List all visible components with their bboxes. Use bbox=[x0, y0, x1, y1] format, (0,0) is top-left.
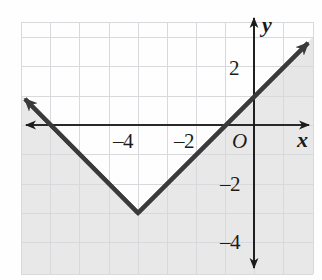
origin-label: O bbox=[232, 131, 247, 152]
y-tick-label--2: –2 bbox=[220, 174, 240, 195]
x-tick-label--2: –2 bbox=[174, 131, 194, 152]
graph-svg bbox=[0, 0, 322, 280]
y-axis-label: y bbox=[262, 14, 272, 36]
x-tick-label--4: –4 bbox=[113, 131, 133, 152]
figure-container: 4. bbox=[0, 0, 322, 280]
x-axis-label: x bbox=[297, 129, 308, 151]
y-tick-label-2: 2 bbox=[229, 58, 239, 79]
y-tick-label--4: –4 bbox=[220, 232, 240, 253]
